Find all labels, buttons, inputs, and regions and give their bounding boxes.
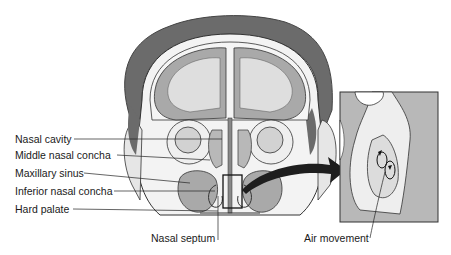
label-hard-palate: Hard palate [15,203,69,215]
right-eye [257,127,283,153]
nasal-septum-shape [228,118,232,213]
label-nasal-septum: Nasal septum [151,232,215,244]
label-inferior-nasal-concha: Inferior nasal concha [15,185,112,197]
right-ear [318,120,336,200]
nasal-anatomy-diagram [0,0,451,255]
label-maxillary-sinus: Maxillary sinus [15,167,84,179]
left-eye [175,127,201,153]
label-middle-nasal-concha: Middle nasal concha [15,149,111,161]
label-air-movement: Air movement [304,232,369,244]
label-nasal-cavity: Nasal cavity [15,133,72,145]
